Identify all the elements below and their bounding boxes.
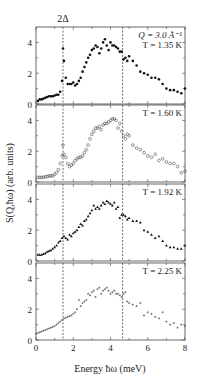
y-tick-label: 4 [28,195,33,205]
q-annotation: Q = 3.0 Å⁻¹ [138,30,182,40]
y-tick-label: 4 [28,274,33,284]
temperature-annotation: T = 1.60 K [143,108,183,118]
gap-label: 2Δ [57,13,69,24]
temperature-annotation: T = 1.35 K [143,40,183,50]
y-tick-label: 2 [28,305,33,315]
chart: 024Q = 3.0 Å⁻¹T = 1.35 K024T = 1.60 K024… [0,0,199,389]
y-tick-label: 0 [28,178,33,188]
y-tick-label: 4 [28,38,33,48]
panel-1: 024Q = 3.0 Å⁻¹T = 1.35 K [28,27,187,110]
panel-4: 024T = 2.25 K [28,263,187,346]
y-tick-label: 2 [28,147,33,157]
y-tick-label: 0 [28,336,33,346]
x-tick-label: 2 [71,343,76,353]
panel-2: 024T = 1.60 K [28,105,187,188]
y-tick-label: 0 [28,257,33,267]
temperature-annotation: T = 2.25 K [143,266,183,276]
temperature-annotation: T = 1.92 K [143,187,183,197]
x-tick-label: 6 [146,343,151,353]
y-tick-label: 2 [28,69,33,79]
x-tick-label: 8 [183,343,188,353]
y-tick-label: 0 [28,100,33,110]
panels: 024Q = 3.0 Å⁻¹T = 1.35 K024T = 1.60 K024… [28,27,188,353]
panel-3: 024T = 1.92 K [28,184,187,267]
x-axis-label: Energy ħω (meV) [74,363,145,375]
x-tick-label: 4 [108,343,113,353]
x-tick-label: 0 [34,343,39,353]
y-tick-label: 2 [28,226,33,236]
y-axis-label: S(Q,ħω) (arb. units) [4,143,16,223]
y-tick-label: 4 [28,116,33,126]
